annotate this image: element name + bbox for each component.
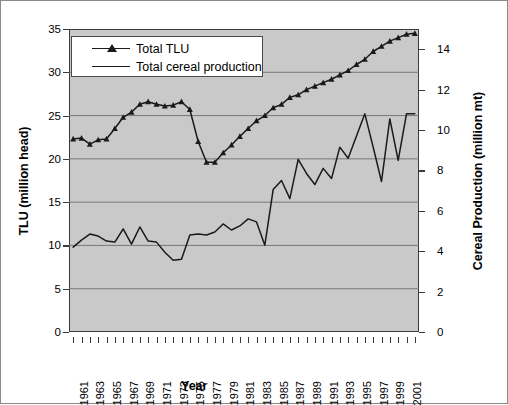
- y-axis-left-tick-label: 5: [27, 283, 61, 295]
- y-axis-right-title: Cereal Production (million mt): [469, 41, 487, 321]
- x-axis-tick-mark: [157, 337, 158, 343]
- y-axis-right-tick-mark: [419, 251, 425, 252]
- x-axis-tick-mark: [365, 337, 366, 343]
- x-axis-tick-mark: [340, 337, 341, 343]
- y-axis-right-tick-label: 8: [437, 164, 471, 176]
- x-axis-tick-mark: [190, 337, 191, 343]
- x-axis-tick-label: 1997: [378, 381, 390, 405]
- x-axis-tick-label: 1961: [78, 381, 90, 405]
- x-axis-tick-mark: [207, 337, 208, 343]
- x-axis-tick-mark: [265, 337, 266, 343]
- x-axis-tick-mark: [307, 337, 308, 343]
- x-axis-tick-mark: [165, 337, 166, 343]
- y-axis-right-tick-mark: [419, 90, 425, 91]
- x-axis-tick-mark: [390, 337, 391, 343]
- x-axis-tick-label: 1963: [94, 381, 106, 405]
- x-axis-tick-mark: [273, 337, 274, 343]
- y-axis-right-tick-mark: [419, 332, 425, 333]
- x-axis-tick-mark: [332, 337, 333, 343]
- y-axis-right-tick-label: 14: [437, 43, 471, 55]
- y-axis-left-tick-label: 15: [27, 196, 61, 208]
- y-axis-right-tick-mark: [419, 211, 425, 212]
- x-axis-tick-mark: [248, 337, 249, 343]
- y-axis-right-tick-mark: [419, 49, 425, 50]
- x-axis-tick-label: 1991: [328, 381, 340, 405]
- x-axis-tick-mark: [282, 337, 283, 343]
- x-axis-tick-mark: [198, 337, 199, 343]
- x-axis-tick-mark: [290, 337, 291, 343]
- x-axis-tick-mark: [140, 337, 141, 343]
- x-axis-tick-mark: [348, 337, 349, 343]
- x-axis-tick-label: 1965: [111, 381, 123, 405]
- x-axis-tick-mark: [123, 337, 124, 343]
- x-axis-tick-label: 1979: [228, 381, 240, 405]
- y-axis-right-tick-mark: [419, 292, 425, 293]
- x-axis-tick-label: 1983: [261, 381, 273, 405]
- y-axis-left-tick-label: 10: [27, 239, 61, 251]
- y-axis-left-ticks: 35302520151050: [27, 1, 61, 405]
- y-axis-right-tick-mark: [419, 130, 425, 131]
- x-axis-title: Year: [181, 379, 207, 393]
- y-axis-left-tick-mark: [63, 332, 69, 333]
- y-axis-right-tick-label: 2: [437, 286, 471, 298]
- x-axis-tick-mark: [398, 337, 399, 343]
- x-axis-tick-mark: [173, 337, 174, 343]
- x-axis-tick-label: 1981: [244, 381, 256, 405]
- x-axis-tick-mark: [382, 337, 383, 343]
- x-axis-tick-mark: [315, 337, 316, 343]
- x-axis-tick-mark: [415, 337, 416, 343]
- chart-legend: Total TLU Total cereal production: [71, 36, 263, 77]
- x-axis-tick-label: 1995: [361, 381, 373, 405]
- x-axis-tick-mark: [148, 337, 149, 343]
- legend-item-total-tlu: Total TLU: [72, 39, 262, 58]
- x-axis-tick-label: 1977: [211, 381, 223, 405]
- x-axis-tick-mark: [357, 337, 358, 343]
- legend-marker-line-icon: [90, 60, 132, 74]
- y-axis-left-tick-label: 35: [27, 23, 61, 35]
- x-axis-tick-label: 1971: [161, 381, 173, 405]
- y-axis-right-tick-label: 10: [437, 124, 471, 136]
- x-axis-tick-label: 1987: [294, 381, 306, 405]
- x-axis-tick-mark: [257, 337, 258, 343]
- y-axis-left-tick-label: 30: [27, 66, 61, 78]
- x-axis-tick-label: 2001: [411, 381, 423, 405]
- legend-label-total-tlu: Total TLU: [136, 42, 189, 56]
- x-axis-tick-mark: [215, 337, 216, 343]
- x-axis-tick-mark: [407, 337, 408, 343]
- x-axis-tick-mark: [232, 337, 233, 343]
- x-axis-tick-mark: [298, 337, 299, 343]
- x-axis-tick-mark: [223, 337, 224, 343]
- x-axis-tick-mark: [240, 337, 241, 343]
- y-axis-right-tick-label: 4: [437, 245, 471, 257]
- y-axis-right-title-text: Cereal Production (million mt): [471, 92, 485, 271]
- x-axis-tick-mark: [115, 337, 116, 343]
- y-axis-left-tick-label: 20: [27, 153, 61, 165]
- y-axis-right-tick-label: 0: [437, 326, 471, 338]
- y-axis-left-tick-label: 0: [27, 326, 61, 338]
- legend-marker-triangle-line-icon: [90, 42, 132, 56]
- x-axis-tick-mark: [323, 337, 324, 343]
- x-axis-tick-mark: [132, 337, 133, 343]
- x-axis-tick-mark: [182, 337, 183, 343]
- x-axis-tick-mark: [373, 337, 374, 343]
- x-axis-tick-label: 1985: [278, 381, 290, 405]
- x-axis-tick-label: 1993: [344, 381, 356, 405]
- x-axis-tick-label: 1999: [394, 381, 406, 405]
- x-axis-tick-mark: [107, 337, 108, 343]
- x-axis-tick-mark: [98, 337, 99, 343]
- x-axis-tick-mark: [82, 337, 83, 343]
- x-axis-tick-label: 1967: [128, 381, 140, 405]
- x-axis-tick-label: 1989: [311, 381, 323, 405]
- x-axis-tick-mark: [90, 337, 91, 343]
- legend-item-total-cereal-production: Total cereal production: [72, 57, 262, 76]
- x-axis-tick-label: 1969: [144, 381, 156, 405]
- y-axis-right-tick-label: 12: [437, 84, 471, 96]
- y-axis-right-tick-mark: [419, 170, 425, 171]
- legend-label-total-cereal-production: Total cereal production: [136, 60, 262, 74]
- y-axis-left-tick-label: 25: [27, 110, 61, 122]
- x-axis-tick-labels: 1961196319651967196919711973197519771979…: [69, 337, 419, 393]
- y-axis-right-tick-label: 6: [437, 205, 471, 217]
- x-axis-tick-mark: [73, 337, 74, 343]
